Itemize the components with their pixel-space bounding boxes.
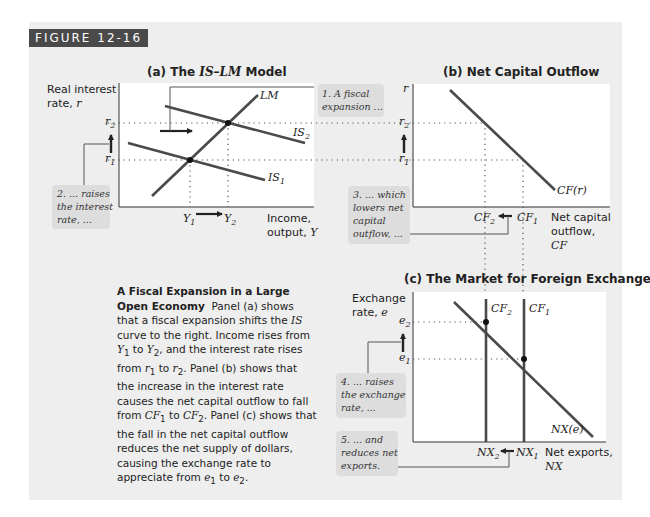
fx-equilibrium-2	[483, 319, 489, 325]
svg-text:5. ... and: 5. ... and	[341, 434, 383, 445]
panel-b-r1-tick: r1	[399, 152, 409, 167]
svg-text:1. A fiscal: 1. A fiscal	[322, 88, 369, 99]
svg-text:3. ... which: 3. ... which	[353, 189, 406, 200]
svg-text:rate, ...: rate, ...	[57, 214, 92, 225]
panel-c-x-label: Net exports,	[545, 446, 613, 459]
panel-a-title: (a) The IS–LM Model	[147, 65, 287, 79]
svg-text:rate, r: rate, r	[47, 97, 82, 110]
panel-c-title: (c) The Market for Foreign Exchange	[404, 272, 650, 286]
cf-curve-label: CF(r)	[557, 184, 587, 197]
panel-b-r2-tick: r2	[399, 115, 409, 130]
fx-equilibrium-1	[521, 356, 527, 362]
svg-text:rate, ...: rate, ...	[341, 402, 376, 413]
svg-text:output, Y: output, Y	[267, 226, 319, 239]
svg-text:capital: capital	[353, 215, 386, 226]
svg-text:rate, e: rate, e	[352, 306, 388, 319]
lm-label: LM	[259, 89, 279, 102]
figure-diagram: (a) The IS–LM Model Real interest rate, …	[0, 0, 650, 517]
svg-text:the interest: the interest	[57, 201, 113, 212]
panel-b-y-label: r	[403, 82, 409, 95]
svg-text:reduces net: reduces net	[341, 447, 398, 458]
panel-b-x-label: Net capital	[551, 211, 611, 224]
nx2-tick: NX2	[476, 446, 500, 461]
panel-c: (c) The Market for Foreign Exchange Exch…	[336, 272, 650, 476]
svg-text:4. ... raises: 4. ... raises	[340, 376, 394, 387]
note-4-leader	[368, 342, 401, 373]
nx1-tick: NX1	[515, 446, 539, 461]
panel-a-x-label: Income,	[267, 212, 311, 225]
svg-text:2. ... raises: 2. ... raises	[56, 188, 110, 199]
r1-tick: r1	[105, 152, 115, 167]
svg-text:lowers net: lowers net	[353, 202, 404, 213]
panel-c-y-label: Exchange	[352, 292, 406, 305]
svg-text:outflow,: outflow,	[551, 225, 595, 238]
cf1-tick: CF1	[517, 211, 538, 226]
panel-a-plot-area	[119, 83, 314, 207]
svg-text:expansion ...: expansion ...	[322, 101, 383, 112]
y2-tick: Y2	[224, 212, 236, 227]
equilibrium-1	[187, 157, 193, 163]
equilibrium-2	[225, 120, 231, 126]
y1-tick: Y1	[183, 212, 195, 227]
panel-a-y-label: Real interest	[47, 83, 117, 96]
e2-tick: e2	[399, 314, 411, 329]
svg-text:NX: NX	[544, 460, 564, 473]
r2-tick: r2	[105, 115, 115, 130]
svg-text:CF: CF	[551, 239, 567, 252]
svg-text:outflow, ...: outflow, ...	[353, 228, 403, 239]
nx-curve-label: NX(e)	[550, 423, 584, 436]
svg-text:exports.: exports.	[341, 460, 380, 471]
e1-tick: e1	[399, 351, 411, 366]
panel-b-title: (b) Net Capital Outflow	[443, 65, 599, 79]
figure-caption: A Fiscal Expansion in a Large Open Econo…	[117, 284, 317, 489]
svg-text:the exchange: the exchange	[341, 389, 406, 400]
cf2-tick: CF2	[474, 211, 495, 226]
